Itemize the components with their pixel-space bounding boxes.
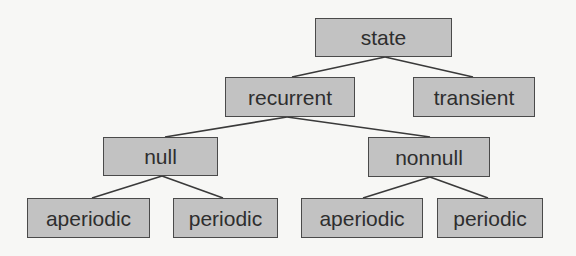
node-nonnull-aperiodic: aperiodic — [301, 198, 423, 238]
node-nonnull: nonnull — [368, 137, 490, 177]
node-label: periodic — [189, 208, 263, 229]
node-label: recurrent — [248, 87, 332, 108]
edge-state-transient — [385, 57, 473, 77]
node-recurrent: recurrent — [225, 77, 355, 117]
node-label: periodic — [453, 208, 527, 229]
edge-null-periodic — [162, 176, 223, 198]
node-label: state — [361, 27, 407, 48]
node-label: aperiodic — [319, 208, 404, 229]
edge-nonnull-periodic — [430, 177, 488, 198]
node-state: state — [315, 18, 452, 57]
node-null: null — [103, 137, 218, 176]
edge-null-aperiodic — [92, 176, 162, 198]
node-label: aperiodic — [46, 208, 131, 229]
node-nonnull-periodic: periodic — [437, 198, 543, 238]
node-transient: transient — [413, 77, 535, 117]
node-label: null — [144, 146, 177, 167]
edge-nonnull-aperiodic — [363, 177, 430, 198]
edge-state-recurrent — [292, 57, 385, 77]
node-label: transient — [434, 87, 515, 108]
node-null-periodic: periodic — [173, 198, 278, 238]
state-classification-tree: state recurrent transient null nonnull a… — [0, 0, 576, 256]
node-label: nonnull — [395, 147, 463, 168]
node-null-aperiodic: aperiodic — [27, 198, 150, 238]
edge-recurrent-null — [165, 117, 287, 137]
edge-recurrent-nonnull — [287, 117, 430, 137]
